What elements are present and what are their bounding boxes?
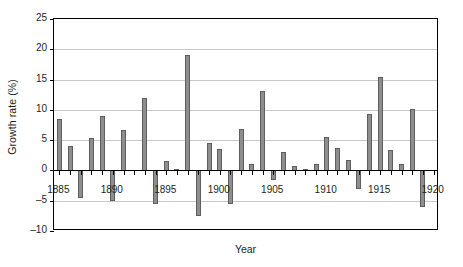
y-axis-tick-labels: 2520151050–5–10 [21, 0, 47, 267]
bar [335, 148, 340, 170]
x-tick-mark [316, 171, 317, 175]
x-tick-mark [124, 171, 125, 175]
x-axis-tick-labels: 18851890189519001905191019151920 [53, 184, 438, 198]
x-tick-mark [252, 171, 253, 175]
x-tick-mark [359, 171, 360, 175]
x-tick-mark [380, 171, 381, 175]
bar [164, 161, 169, 170]
bar [142, 98, 147, 171]
x-tick-mark [113, 171, 114, 175]
x-axis-tick-label: 1910 [306, 184, 346, 195]
x-tick-mark [284, 171, 285, 175]
bar [57, 119, 62, 170]
bar [100, 116, 105, 171]
x-tick-mark [198, 171, 199, 175]
x-tick-mark [337, 171, 338, 175]
x-tick-mark [402, 171, 403, 175]
x-axis-tick-label: 1885 [38, 184, 78, 195]
y-tick-mark [50, 80, 54, 81]
x-tick-mark [91, 171, 92, 175]
y-tick-mark [50, 110, 54, 111]
bar [121, 130, 126, 171]
x-tick-mark [295, 171, 296, 175]
x-tick-mark [188, 171, 189, 175]
x-axis-tick-label: 1900 [199, 184, 239, 195]
bar [388, 150, 393, 170]
bar [410, 109, 415, 171]
bar [346, 160, 351, 171]
x-axis-tick-label: 1915 [359, 184, 399, 195]
x-tick-mark [327, 171, 328, 175]
bar [378, 77, 383, 171]
y-tick-mark [50, 49, 54, 50]
x-tick-mark [434, 171, 435, 175]
x-tick-mark [412, 171, 413, 175]
x-tick-mark [263, 171, 264, 175]
x-tick-mark [423, 171, 424, 175]
y-tick-mark [50, 201, 54, 202]
x-tick-mark [273, 171, 274, 175]
x-tick-mark [369, 171, 370, 175]
x-tick-mark [230, 171, 231, 175]
x-tick-mark [145, 171, 146, 175]
x-axis-title: Year [53, 243, 438, 255]
y-tick-mark [50, 140, 54, 141]
x-tick-mark [166, 171, 167, 175]
y-axis-tick-label: 5 [21, 134, 47, 144]
bar [260, 91, 265, 170]
x-axis-tick-label: 1905 [252, 184, 292, 195]
y-tick-mark [50, 231, 54, 232]
y-axis-tick-label: 20 [21, 43, 47, 53]
y-axis-tick-label: 10 [21, 104, 47, 114]
bar [89, 138, 94, 170]
y-axis-tick-label: –10 [21, 225, 47, 235]
x-tick-mark [59, 171, 60, 175]
y-axis-tick-label: 25 [21, 13, 47, 23]
x-tick-mark [156, 171, 157, 175]
bar [185, 55, 190, 170]
x-axis-tick-label: 1890 [92, 184, 132, 195]
y-tick-mark [50, 19, 54, 20]
x-tick-mark [70, 171, 71, 175]
x-tick-mark [134, 171, 135, 175]
x-tick-mark [391, 171, 392, 175]
bar [207, 143, 212, 170]
x-axis-tick-label: 1895 [145, 184, 185, 195]
x-axis-tick-label: 1920 [413, 184, 453, 195]
x-tick-mark [305, 171, 306, 175]
x-tick-mark [177, 171, 178, 175]
x-tick-mark [81, 171, 82, 175]
bar [68, 146, 73, 170]
y-axis-tick-label: 0 [21, 164, 47, 174]
y-axis-tick-label: –5 [21, 195, 47, 205]
x-tick-mark [102, 171, 103, 175]
bar [367, 114, 372, 170]
x-tick-mark [209, 171, 210, 175]
plot-area [53, 18, 438, 230]
bar [239, 129, 244, 171]
bar-chart: Growth rate (%) 2520151050–5–10 18851890… [0, 0, 463, 267]
x-tick-mark [348, 171, 349, 175]
bar [281, 152, 286, 170]
bar [217, 149, 222, 170]
bar [324, 137, 329, 170]
x-tick-mark [241, 171, 242, 175]
y-axis-tick-label: 15 [21, 74, 47, 84]
x-tick-mark [220, 171, 221, 175]
